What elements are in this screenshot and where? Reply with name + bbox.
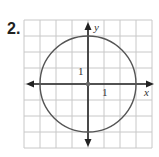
- graph-labels: y x 1 1: [0, 0, 159, 157]
- x-axis-label: x: [143, 86, 149, 98]
- x-tick-label: 1: [102, 86, 108, 98]
- y-axis-label: y: [93, 21, 99, 33]
- y-tick-label: 1: [78, 65, 84, 77]
